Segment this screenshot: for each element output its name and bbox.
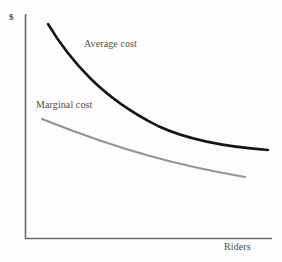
average-cost-annotation: Average cost [84, 39, 137, 49]
average-cost-curve [48, 24, 268, 150]
y-axis-label: $ [9, 13, 14, 22]
marginal-cost-annotation: Marginal cost [36, 100, 92, 110]
marginal-cost-curve [42, 119, 245, 177]
x-axis-label: Riders [224, 242, 251, 252]
cost-curve-chart: $ Average cost Marginal cost Riders [0, 0, 282, 262]
chart-canvas [0, 0, 282, 262]
